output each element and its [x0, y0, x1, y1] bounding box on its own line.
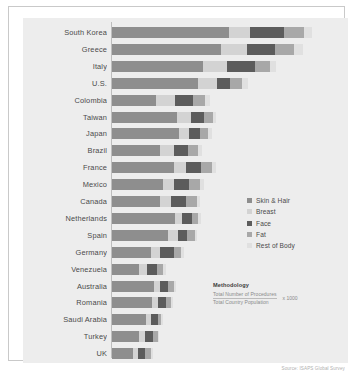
category-label: Turkey: [23, 328, 107, 345]
stacked-bar-plot: South KoreaGreeceItalyU.S.ColombiaTaiwan…: [23, 18, 348, 363]
bar-segment-face: [191, 112, 204, 123]
bar-segment-fat: [186, 196, 197, 207]
bar-segment-skin-hair: [112, 247, 151, 258]
category-label: Brazil: [23, 142, 107, 159]
bar-segment-fat: [157, 264, 164, 275]
bar-segment-breast: [139, 331, 146, 342]
bar-segment-skin-hair: [112, 61, 203, 72]
bar-segment-skin-hair: [112, 27, 229, 38]
bar-segment-skin-hair: [112, 44, 221, 55]
stacked-bar: [112, 78, 248, 89]
source-attribution: Source: ISAPS Global Survey: [8, 366, 345, 371]
bar-segment-rest-of-body: [208, 128, 212, 139]
category-label: Romania: [23, 294, 107, 311]
bar-segment-face: [178, 230, 188, 241]
bar-segment-skin-hair: [112, 162, 174, 173]
stacked-bar: [112, 145, 202, 156]
bar-segment-fat: [200, 128, 208, 139]
bar-segment-skin-hair: [112, 95, 156, 106]
bar-segment-face: [160, 247, 173, 258]
bar-segment-face: [227, 61, 256, 72]
stacked-bar: [112, 281, 176, 292]
bar-segment-breast: [151, 247, 161, 258]
bar-segment-skin-hair: [112, 281, 154, 292]
bar-segment-rest-of-body: [158, 331, 160, 342]
stacked-bar: [112, 213, 201, 224]
bar-segment-face: [151, 314, 158, 325]
bar-segment-fat: [204, 112, 213, 123]
stacked-bar: [112, 264, 166, 275]
bar-segment-breast: [139, 264, 148, 275]
bar-segment-breast: [198, 78, 217, 89]
bar-segment-fat: [255, 61, 269, 72]
bar-segment-rest-of-body: [171, 297, 173, 308]
bar-row: Greece: [23, 41, 348, 58]
legend-item: Face: [247, 218, 342, 228]
bar-segment-face: [189, 128, 200, 139]
bar-row: Colombia: [23, 92, 348, 109]
stacked-bar: [112, 314, 163, 325]
bar-segment-fat: [193, 95, 205, 106]
bar-row: UK: [23, 345, 348, 362]
category-label: UK: [23, 345, 107, 362]
stacked-bar: [112, 348, 153, 359]
bar-segment-breast: [160, 145, 174, 156]
category-label: Mexico: [23, 176, 107, 193]
bar-row: Japan: [23, 125, 348, 142]
bar-segment-rest-of-body: [151, 348, 153, 359]
bar-segment-face: [186, 162, 201, 173]
chart-legend: Skin & HairBreastFaceFatRest of Body: [247, 196, 342, 252]
stacked-bar: [112, 61, 276, 72]
legend-item: Skin & Hair: [247, 196, 342, 206]
bar-segment-skin-hair: [112, 230, 168, 241]
bar-row: Brazil: [23, 142, 348, 159]
bar-segment-rest-of-body: [213, 112, 217, 123]
bar-segment-breast: [163, 179, 173, 190]
category-label: U.S.: [23, 75, 107, 92]
bar-row: Saudi Arabia: [23, 311, 348, 328]
bar-segment-skin-hair: [112, 128, 179, 139]
bar-segment-breast: [156, 95, 175, 106]
stacked-bar: [112, 247, 184, 258]
bar-row: France: [23, 159, 348, 176]
stacked-bar: [112, 128, 212, 139]
legend-label: Fat: [256, 231, 266, 238]
bar-segment-skin-hair: [112, 196, 160, 207]
legend-swatch-icon: [247, 221, 252, 226]
bar-segment-rest-of-body: [174, 281, 176, 292]
bar-segment-skin-hair: [112, 314, 146, 325]
bar-segment-face: [174, 179, 189, 190]
bar-row: Venezuela: [23, 261, 348, 278]
methodology-formula: Total Number of Procedures Total Country…: [213, 291, 338, 305]
legend-label: Skin & Hair: [256, 197, 290, 204]
stacked-bar: [112, 95, 210, 106]
category-label: Australia: [23, 278, 107, 295]
legend-swatch-icon: [247, 209, 252, 214]
bar-segment-fat: [189, 179, 200, 190]
bar-segment-fat: [275, 44, 294, 55]
methodology-fraction: Total Number of Procedures Total Country…: [213, 291, 277, 305]
chart-figure: South KoreaGreeceItalyU.S.ColombiaTaiwan…: [0, 0, 355, 380]
category-label: Taiwan: [23, 109, 107, 126]
category-label: Venezuela: [23, 261, 107, 278]
bar-segment-face: [138, 348, 146, 359]
category-label: Colombia: [23, 92, 107, 109]
bar-segment-rest-of-body: [163, 264, 166, 275]
stacked-bar: [112, 230, 197, 241]
bar-segment-rest-of-body: [242, 78, 248, 89]
bar-segment-breast: [203, 61, 227, 72]
bar-row: U.S.: [23, 75, 348, 92]
bar-segment-fat: [201, 162, 211, 173]
stacked-bar: [112, 162, 216, 173]
bar-segment-breast: [174, 162, 186, 173]
bar-segment-breast: [160, 196, 171, 207]
bar-segment-breast: [168, 230, 178, 241]
bar-segment-face: [182, 213, 192, 224]
methodology-note: Methodology Total Number of Procedures T…: [213, 282, 338, 305]
bar-segment-face: [250, 27, 284, 38]
bar-segment-breast: [179, 128, 189, 139]
bar-segment-rest-of-body: [205, 95, 210, 106]
bar-segment-skin-hair: [112, 348, 133, 359]
legend-item: Rest of Body: [247, 241, 342, 251]
bar-row: Taiwan: [23, 109, 348, 126]
